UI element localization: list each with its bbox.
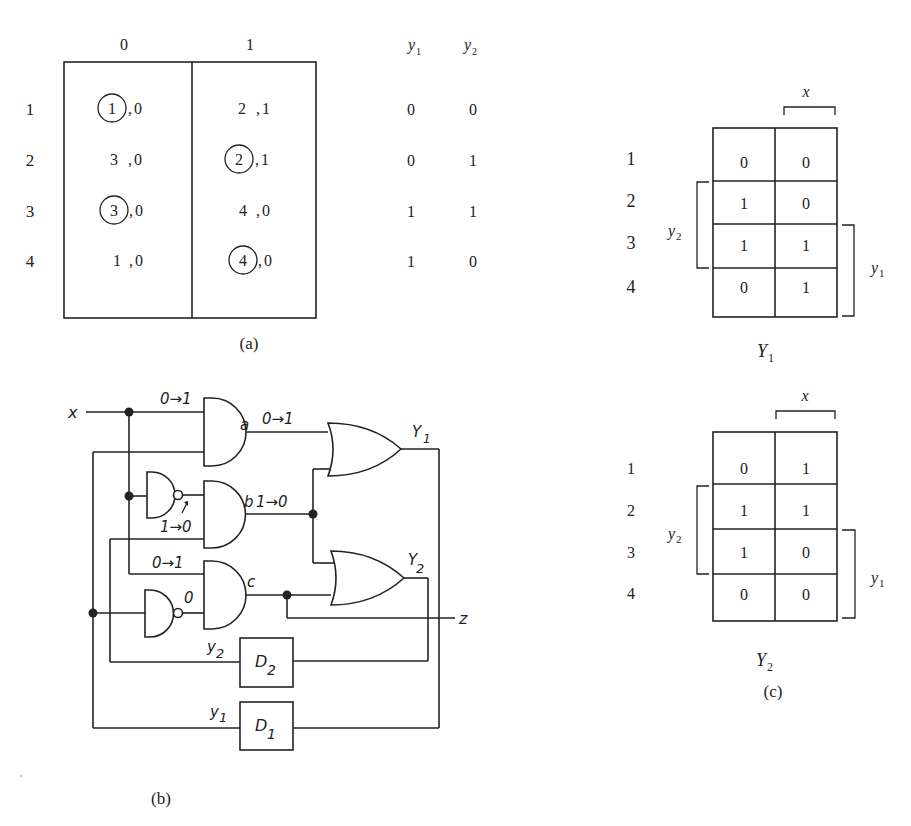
- table-cell: 4 , 0: [239, 202, 270, 219]
- arrow-icon: [182, 503, 187, 513]
- svg-text:1: 1: [219, 710, 227, 725]
- output-header-y2: y 2: [462, 36, 477, 57]
- row-label: 1: [26, 100, 35, 119]
- x-variable-label: x: [801, 83, 809, 100]
- karnaugh-map-Y2: 1 2 3 4 x 0 1 1 1 1 0 0 0 y 2 y 1 Y 2: [627, 387, 885, 674]
- svg-text:1: 1: [267, 726, 276, 742]
- row-label: 3: [26, 202, 35, 221]
- y2-bracket: [697, 486, 709, 574]
- x-bracket: [776, 411, 835, 419]
- output-y1: 1: [407, 203, 415, 220]
- svg-text:0: 0: [135, 202, 143, 219]
- svg-text:y: y: [869, 259, 879, 277]
- svg-text:,: ,: [129, 202, 133, 219]
- kmap-cell: 1: [802, 460, 810, 477]
- svg-text:,: ,: [128, 100, 132, 117]
- kmap-cell: 0: [740, 154, 748, 171]
- row-label: 4: [627, 277, 636, 297]
- svg-text:1: 1: [416, 46, 421, 57]
- kmap-cell: 0: [802, 154, 810, 171]
- transition-label: 0: [184, 589, 194, 607]
- svg-text:,: ,: [256, 100, 260, 117]
- row-label: 2: [26, 151, 35, 170]
- nand-gate-1: [147, 472, 175, 518]
- svg-text:0: 0: [262, 202, 270, 219]
- transition-label: 0→1: [160, 390, 192, 408]
- output-y1: 0: [407, 152, 415, 169]
- kmap-cell: 1: [740, 237, 748, 254]
- figure-canvas: 0 1 y 1 y 2 1 2 3 4 1 , 0 3 , 0: [0, 0, 911, 826]
- row-label: 3: [627, 544, 635, 561]
- svg-text:y: y: [666, 525, 676, 543]
- svg-text:3: 3: [110, 202, 118, 219]
- svg-text:,: ,: [258, 252, 262, 269]
- svg-text:y: y: [869, 569, 879, 587]
- input-label-x: x: [67, 403, 78, 422]
- svg-text:4: 4: [239, 252, 247, 269]
- kmap-cell: 0: [740, 460, 748, 477]
- kmap-cell: 1: [802, 279, 810, 296]
- output-y1: 0: [407, 101, 415, 118]
- transition-label: 1→0: [256, 493, 288, 511]
- y1-variable-label: y 1: [869, 569, 885, 589]
- caption-c: (c): [764, 682, 783, 701]
- svg-text:2: 2: [216, 646, 224, 661]
- row-label: 1: [627, 460, 635, 477]
- column-header-1: 1: [246, 36, 254, 53]
- svg-text:2: 2: [267, 662, 276, 678]
- svg-text:1: 1: [262, 100, 270, 117]
- table-cell: 2 , 1: [225, 145, 269, 173]
- output-y2: 0: [469, 253, 477, 270]
- karnaugh-map-Y1: 1 2 3 4 x 0 0 1 0 1 1 0 1 y 2 y 1 Y 1: [627, 83, 885, 365]
- y2-bracket: [697, 182, 709, 268]
- table-cell: 3 , 0: [110, 151, 142, 168]
- y2-variable-label: y 2: [666, 525, 682, 545]
- svg-text:,: ,: [129, 252, 133, 269]
- kmap-cell: 0: [802, 544, 810, 561]
- output-y1: 1: [407, 253, 415, 270]
- output-label-z: z: [458, 609, 468, 628]
- caption-a: (a): [240, 334, 259, 353]
- column-header-0: 0: [120, 36, 128, 53]
- svg-text:0: 0: [135, 252, 143, 269]
- svg-text:1: 1: [768, 351, 774, 365]
- svg-text:1: 1: [113, 252, 121, 269]
- svg-text:2: 2: [767, 660, 773, 674]
- svg-text:2: 2: [676, 230, 682, 242]
- output-label-Y1: Y 1: [412, 423, 431, 446]
- gate-label-c: c: [247, 573, 256, 591]
- svg-text:,: ,: [128, 151, 132, 168]
- y2-variable-label: y 2: [666, 222, 682, 242]
- svg-text:2: 2: [472, 46, 477, 57]
- flow-table-frame: [64, 62, 316, 318]
- caption-b: (b): [151, 789, 171, 808]
- kmap-cell: 0: [802, 195, 810, 212]
- svg-text:D: D: [255, 716, 267, 735]
- kmap-title-Y2: Y 2: [756, 650, 773, 674]
- output-header-y1: y 1: [406, 36, 421, 57]
- svg-text:2: 2: [238, 100, 246, 117]
- svg-text:1: 1: [261, 151, 269, 168]
- output-y2: 1: [469, 152, 477, 169]
- svg-text:1: 1: [423, 432, 431, 446]
- output-y2: 1: [469, 203, 477, 220]
- svg-text:0: 0: [134, 100, 142, 117]
- row-label: 3: [627, 233, 636, 253]
- svg-text:4: 4: [239, 202, 247, 219]
- svg-text:1: 1: [108, 100, 116, 117]
- transition-label: 0→1: [262, 410, 294, 428]
- row-label: 2: [627, 191, 636, 211]
- svg-text:y: y: [406, 36, 416, 54]
- inversion-bubble: [174, 491, 183, 500]
- svg-text:1: 1: [879, 577, 885, 589]
- row-label: 1: [627, 149, 636, 169]
- svg-text:2: 2: [235, 151, 243, 168]
- table-cell: 2 , 1: [238, 100, 270, 117]
- inversion-bubble: [174, 609, 183, 618]
- or-gate-y1: [328, 423, 401, 476]
- svg-text:D: D: [255, 652, 267, 671]
- svg-text:1: 1: [879, 267, 885, 279]
- flow-table: 0 1 y 1 y 2 1 2 3 4 1 , 0 3 , 0: [26, 36, 477, 353]
- svg-text:y: y: [462, 36, 472, 54]
- gate-label-b: b: [244, 493, 254, 511]
